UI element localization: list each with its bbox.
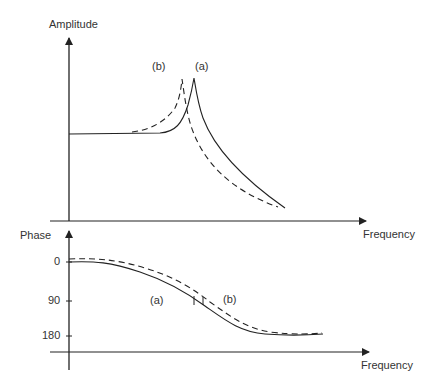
frequency-response-diagram bbox=[0, 0, 433, 392]
phase-curve-a bbox=[69, 262, 323, 335]
curve-b-label-bottom: (b) bbox=[223, 293, 236, 305]
amplitude-curve-a bbox=[69, 78, 285, 208]
tick-label-90: 90 bbox=[48, 294, 60, 306]
curve-a-label-bottom: (a) bbox=[150, 294, 163, 306]
tick-label-180: 180 bbox=[42, 329, 60, 341]
amplitude-axis-label: Amplitude bbox=[49, 18, 98, 30]
frequency-label-bottom: Frequency bbox=[361, 359, 413, 371]
phase-curve-b bbox=[69, 259, 322, 334]
curve-a-label-top: (a) bbox=[195, 60, 208, 72]
tick-label-0: 0 bbox=[54, 255, 60, 267]
phase-axis-label: Phase bbox=[20, 229, 51, 241]
amplitude-curve-b bbox=[132, 79, 278, 207]
frequency-label-top: Frequency bbox=[363, 228, 415, 240]
curve-b-label-top: (b) bbox=[152, 60, 165, 72]
